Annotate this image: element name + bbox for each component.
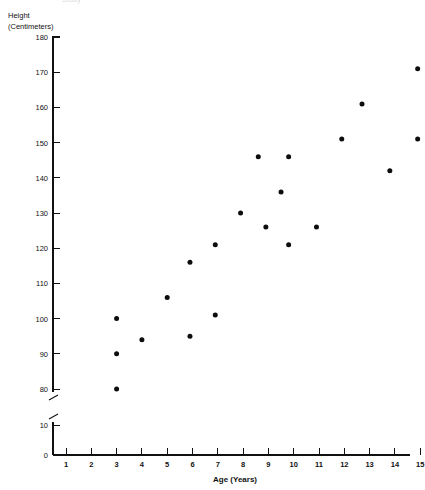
data-point xyxy=(139,337,144,342)
x-tick-label: 15 xyxy=(416,460,424,469)
x-tick-label: 11 xyxy=(315,460,323,469)
y-tick-label: 140 xyxy=(35,174,48,183)
x-tick-label: 13 xyxy=(365,460,373,469)
y-tick-label: 180 xyxy=(35,33,48,42)
y-tick-label: 130 xyxy=(35,209,48,218)
x-tick-label: 4 xyxy=(140,460,145,469)
data-point xyxy=(387,168,392,173)
y-tick-label: 80 xyxy=(40,385,48,394)
data-point xyxy=(114,387,119,392)
data-points-layer xyxy=(114,66,420,391)
data-point xyxy=(415,137,420,142)
data-point xyxy=(114,351,119,356)
x-tick-label: 14 xyxy=(391,460,400,469)
data-point xyxy=(238,211,243,216)
y-tick-label: 160 xyxy=(35,103,48,112)
y-tick-label: 100 xyxy=(35,315,48,324)
x-tick-label: 6 xyxy=(190,460,194,469)
data-point xyxy=(279,189,284,194)
y-tick-label: 120 xyxy=(35,244,48,253)
x-axis-caption: Age (Years) xyxy=(213,475,257,484)
data-point xyxy=(187,334,192,339)
data-point xyxy=(360,101,365,106)
data-point xyxy=(286,154,291,159)
y-tick-label: 150 xyxy=(35,139,48,148)
data-point xyxy=(339,137,344,142)
x-tick-label: 8 xyxy=(241,460,245,469)
data-point xyxy=(213,313,218,318)
x-tick-label: 3 xyxy=(115,460,119,469)
y-axis-break-icon xyxy=(49,395,58,419)
data-point xyxy=(415,66,420,71)
x-tick-label: 2 xyxy=(89,460,93,469)
y-tick-label: 90 xyxy=(40,350,48,359)
x-tick-label: 9 xyxy=(266,460,270,469)
data-point xyxy=(256,154,261,159)
x-tick-label: 1 xyxy=(64,460,68,469)
x-tick-label: 12 xyxy=(340,460,348,469)
x-axis: 123456789101112131415 xyxy=(53,448,424,469)
data-point xyxy=(165,295,170,300)
data-point xyxy=(314,225,319,230)
y-tick-label: 110 xyxy=(36,279,48,288)
x-tick-label: 10 xyxy=(290,460,298,469)
y-tick-label: 10 xyxy=(40,421,48,430)
data-point xyxy=(187,260,192,265)
data-point xyxy=(263,225,268,230)
data-point xyxy=(114,316,119,321)
data-point xyxy=(213,242,218,247)
y-tick-label: 170 xyxy=(35,68,48,77)
x-tick-label: 7 xyxy=(216,460,220,469)
scatter-chart-figure: Study Height (Centimeters) 1801701601501… xyxy=(0,0,425,490)
data-point xyxy=(286,242,291,247)
plot-canvas: 1801701601501401301201101009080100 12345… xyxy=(0,0,425,490)
y-tick-label: 0 xyxy=(44,451,48,460)
x-tick-label: 5 xyxy=(165,460,169,469)
